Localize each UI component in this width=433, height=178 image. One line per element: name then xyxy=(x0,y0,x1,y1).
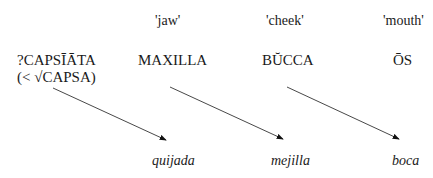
arrow-maxilla-mejilla xyxy=(170,87,283,139)
spanish-quijada: quijada xyxy=(152,154,195,168)
spanish-boca: boca xyxy=(392,154,419,168)
derivation-arrows xyxy=(0,0,433,178)
arrow-bucca-boca xyxy=(287,87,399,139)
arrow-capsiata-quijada xyxy=(53,88,166,140)
spanish-mejilla: mejilla xyxy=(271,154,310,168)
